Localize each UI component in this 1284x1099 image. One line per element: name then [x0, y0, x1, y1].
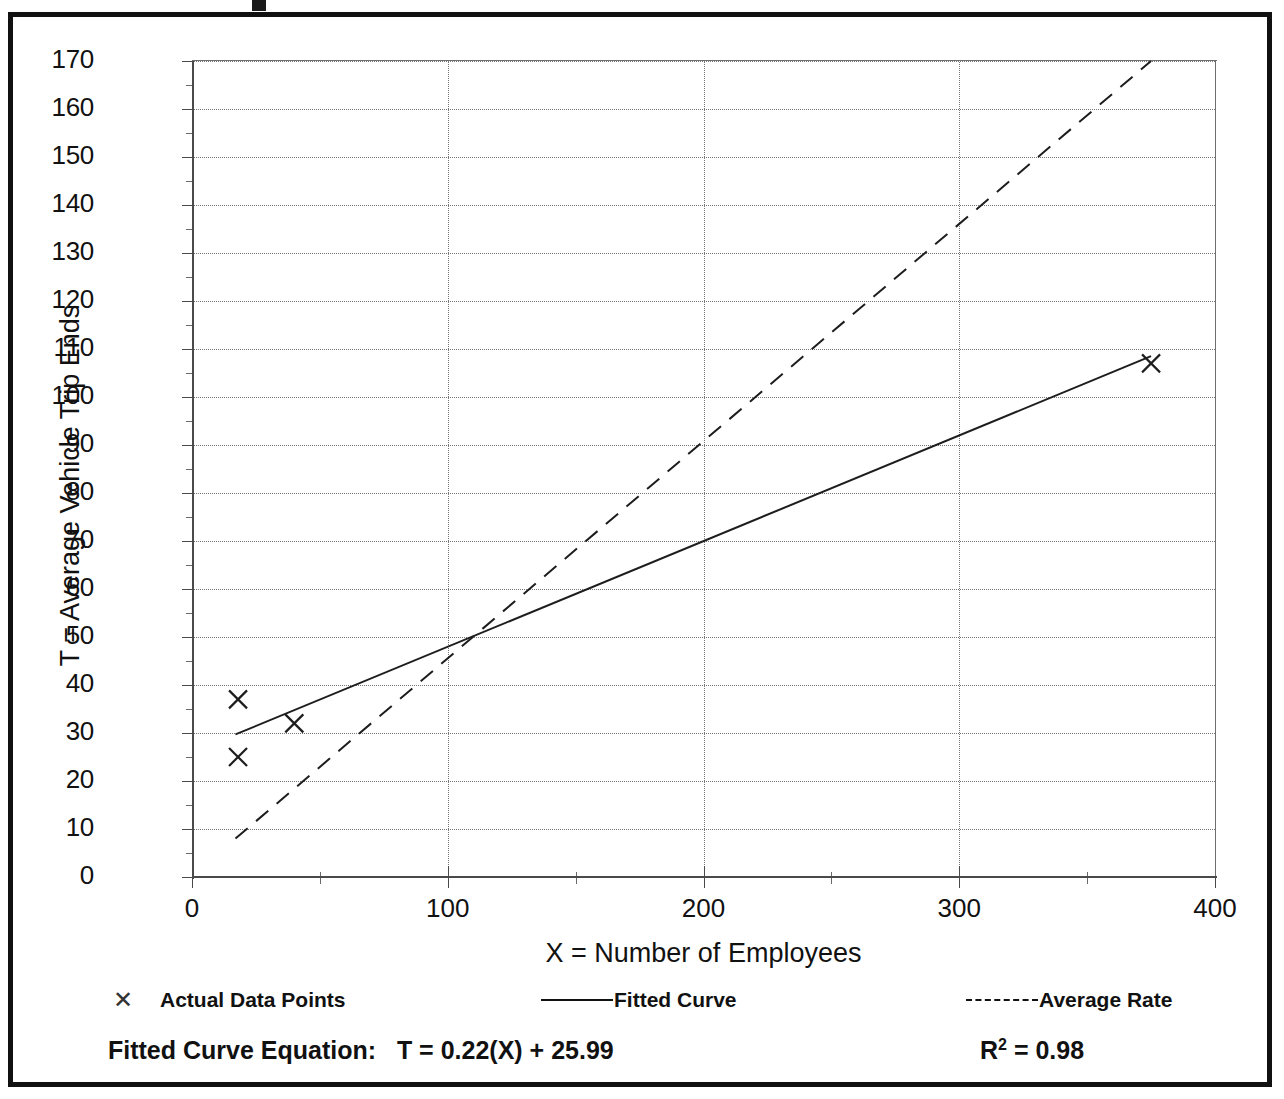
y-axis-line — [192, 61, 194, 879]
x-tick-label: 300 — [899, 893, 1019, 924]
legend-item-actual-data-points[interactable]: ✕ Actual Data Points — [86, 980, 346, 1020]
equation-value: T = 0.22(X) + 25.99 — [397, 1036, 614, 1064]
footer: Fitted Curve Equation: T = 0.22(X) + 25.… — [40, 1032, 1240, 1078]
x-gridline — [704, 62, 705, 877]
x-tick-minor — [576, 872, 577, 884]
x-tick-label: 100 — [388, 893, 508, 924]
plot-top-border — [192, 60, 1217, 61]
chart-page: 0102030405060708090100110120130140150160… — [0, 0, 1284, 1099]
x-marker-icon: ✕ — [86, 988, 160, 1012]
x-tick-minor — [320, 872, 321, 884]
r2-equals-value: = 0.98 — [1014, 1036, 1084, 1064]
cropped-title-mark — [252, 0, 266, 11]
x-axis-title: X = Number of Employees — [192, 938, 1215, 969]
solid-line-icon — [540, 999, 614, 1001]
equation-label: Fitted Curve Equation: — [108, 1036, 376, 1064]
legend: ✕ Actual Data Points Fitted Curve Averag… — [40, 980, 1240, 1020]
x-tick-label: 0 — [132, 893, 252, 924]
legend-item-fitted-curve[interactable]: Fitted Curve — [540, 980, 737, 1020]
x-tick-label: 200 — [644, 893, 764, 924]
legend-label: Average Rate — [1039, 988, 1172, 1012]
x-tick-minor — [831, 872, 832, 884]
figure-frame — [8, 12, 1272, 1087]
legend-label: Actual Data Points — [160, 988, 346, 1012]
r2-symbol: R — [980, 1036, 998, 1064]
y-tick-label: 170 — [0, 44, 94, 75]
legend-label: Fitted Curve — [614, 988, 737, 1012]
r2-exponent: 2 — [998, 1036, 1007, 1053]
y-tick-label: 0 — [0, 860, 94, 891]
r-squared-value: R2 = 0.98 — [980, 1036, 1084, 1065]
legend-item-average-rate[interactable]: Average Rate — [965, 980, 1172, 1020]
fitted-curve-equation: Fitted Curve Equation: T = 0.22(X) + 25.… — [108, 1036, 614, 1065]
plot-right-border — [1215, 61, 1216, 878]
y-tick-label: 10 — [0, 812, 94, 843]
y-tick-label: 160 — [0, 92, 94, 123]
x-tick-minor — [1087, 872, 1088, 884]
x-gridline — [959, 62, 960, 877]
x-axis-line — [192, 876, 1217, 878]
y-axis-title: T = Average Vehicle Trip Ends — [55, 166, 86, 806]
x-tick-label: 400 — [1155, 893, 1275, 924]
x-gridline — [448, 62, 449, 877]
dashed-line-icon — [965, 999, 1039, 1001]
